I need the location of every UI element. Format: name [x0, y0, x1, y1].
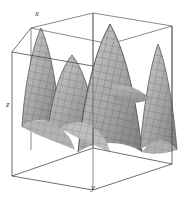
axis-label-z: z: [6, 100, 10, 109]
surface-plot-figure: x y z: [0, 0, 182, 205]
saddle-center-right: [112, 86, 150, 103]
surface-mesh-group: [22, 24, 177, 154]
axis-label-x: x: [35, 9, 39, 18]
axis-label-y: y: [91, 183, 95, 192]
surface-plot-canvas: [0, 0, 182, 205]
